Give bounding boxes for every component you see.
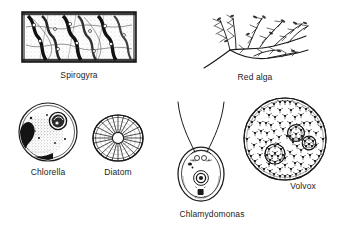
- spirogyra-illustration: [18, 7, 140, 67]
- red-alga-thallus-icon: [200, 6, 312, 70]
- chlamydomonas-label: Chlamydomonas: [155, 209, 269, 219]
- red-alga-label: Red alga: [200, 72, 310, 82]
- chlorella-label: Chlorella: [17, 167, 79, 177]
- chlorella-illustration: [17, 101, 79, 163]
- chlorella-cell-icon: [17, 101, 79, 163]
- volvox-daughter-colony: [287, 125, 304, 142]
- volvox-label: Volvox: [272, 181, 334, 191]
- volvox-daughter-colony: [264, 144, 285, 165]
- diatom-illustration: [90, 112, 146, 164]
- spirogyra-filament-icon: [18, 7, 140, 67]
- chlamydomonas-cell-icon: [166, 96, 236, 204]
- red-alga-illustration: [200, 6, 312, 70]
- diatom-frustule-icon: [90, 112, 146, 164]
- volvox-colony-icon: [240, 96, 332, 182]
- chlamydomonas-illustration: [166, 96, 236, 204]
- volvox-daughter-colony: [302, 136, 316, 150]
- diatom-label: Diatom: [90, 167, 146, 177]
- algae-figure: Spirogyra: [0, 0, 337, 232]
- volvox-illustration: [240, 96, 332, 182]
- spirogyra-label: Spirogyra: [18, 70, 140, 80]
